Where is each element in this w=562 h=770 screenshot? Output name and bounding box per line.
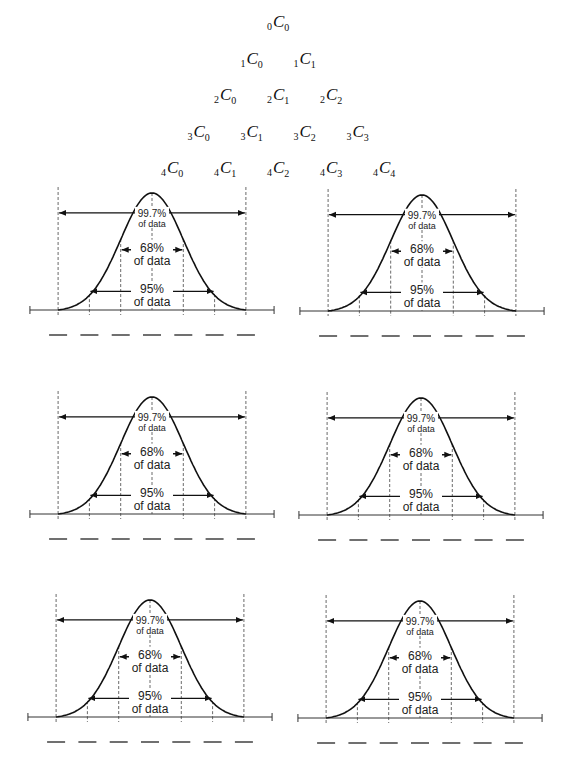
of-data-label: of data: [404, 255, 441, 269]
of-data-label: of data: [136, 626, 164, 636]
percent-label: 99.7%: [138, 208, 166, 219]
of-data-label: of data: [134, 458, 171, 472]
of-data-label: of data: [407, 424, 435, 434]
of-data-label: of data: [402, 662, 439, 676]
of-data-label: of data: [132, 702, 169, 716]
of-data-label: of data: [134, 254, 171, 268]
percent-label: 68%: [140, 241, 164, 255]
percent-label: 95%: [140, 486, 164, 500]
percent-label: 68%: [410, 242, 434, 256]
of-data-label: of data: [138, 219, 166, 229]
normal-curve-panel: 99.7%of data68%of data95%of data: [300, 189, 544, 336]
normal-curve-panel: 99.7%of data68%of data95%of data: [28, 594, 272, 742]
percent-label: 95%: [138, 689, 162, 703]
of-data-label: of data: [402, 703, 439, 717]
of-data-label: of data: [406, 627, 434, 637]
percent-label: 99.7%: [408, 210, 436, 221]
percent-label: 99.7%: [407, 413, 435, 424]
of-data-label: of data: [403, 459, 440, 473]
normal-curve-panel: 99.7%of data68%of data95%of data: [299, 392, 543, 540]
percent-label: 68%: [138, 648, 162, 662]
of-data-label: of data: [134, 295, 171, 309]
of-data-label: of data: [138, 423, 166, 433]
normal-curve-panel: 99.7%of data68%of data95%of data: [298, 595, 542, 743]
percent-label: 68%: [408, 649, 432, 663]
percent-label: 95%: [409, 487, 433, 501]
percent-label: 68%: [409, 446, 433, 460]
percent-label: 99.7%: [136, 615, 164, 626]
of-data-label: of data: [404, 296, 441, 310]
of-data-label: of data: [403, 500, 440, 514]
percent-label: 95%: [410, 283, 434, 297]
of-data-label: of data: [132, 661, 169, 675]
percent-label: 99.7%: [406, 616, 434, 627]
of-data-label: of data: [408, 221, 436, 231]
normal-curve-panel: 99.7%of data68%of data95%of data: [30, 391, 274, 539]
percent-label: 95%: [408, 690, 432, 704]
percent-label: 99.7%: [138, 412, 166, 423]
percent-label: 68%: [140, 445, 164, 459]
normal-curves-grid: 99.7%of data68%of data95%of data99.7%of …: [0, 0, 562, 770]
of-data-label: of data: [134, 499, 171, 513]
percent-label: 95%: [140, 282, 164, 296]
normal-curve-panel: 99.7%of data68%of data95%of data: [30, 187, 274, 335]
